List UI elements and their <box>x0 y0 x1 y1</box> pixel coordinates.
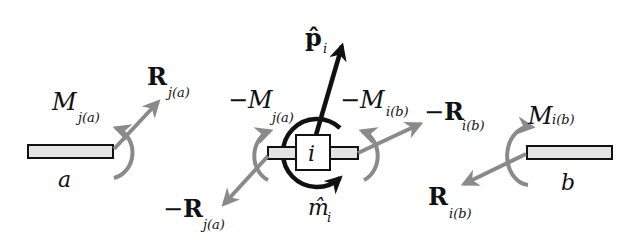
label-a: a <box>58 167 71 192</box>
label-M-ja: M j(a) <box>51 88 100 125</box>
svg-text:j(a): j(a) <box>165 85 190 100</box>
svg-text:i: i <box>323 41 327 56</box>
label-negR-ja: −R j(a) <box>163 194 225 232</box>
label-negM-ja: −M j(a) <box>228 86 294 125</box>
bar-a <box>28 145 113 158</box>
label-M-ib: M i(b) <box>527 102 575 130</box>
label-R-ib: R i(b) <box>428 182 472 221</box>
svg-text:j(a): j(a) <box>200 217 225 232</box>
svg-text:i(b): i(b) <box>462 118 485 133</box>
svg-text:R: R <box>428 182 449 211</box>
moment-arrow-M-ja <box>114 128 132 178</box>
force-arrow-negR-ja <box>224 156 268 204</box>
force-arrow-R-ja <box>114 102 158 149</box>
svg-text:R: R <box>147 62 168 91</box>
svg-text:M: M <box>527 102 554 130</box>
diagram-canvas: a M j(a) R j(a) i p̂ i −M j(a) −M <box>0 0 642 242</box>
svg-text:j(a): j(a) <box>269 110 294 125</box>
svg-text:−M: −M <box>340 86 386 114</box>
svg-text:p̂: p̂ <box>305 23 322 52</box>
label-negR-ib: −R i(b) <box>424 97 485 133</box>
body-i: i <box>224 46 420 204</box>
svg-text:−R: −R <box>424 97 465 126</box>
label-i: i <box>308 141 315 166</box>
force-arrow-negR-ib <box>358 124 420 153</box>
bar-b <box>527 146 612 159</box>
label-m-hat-i: m̂ i <box>308 195 331 225</box>
svg-text:−M: −M <box>228 86 274 114</box>
body-b: b <box>527 146 612 195</box>
svg-text:i(b): i(b) <box>552 112 575 127</box>
label-b: b <box>561 170 575 195</box>
label-negM-ib: −M i(b) <box>340 86 409 119</box>
svg-text:i: i <box>327 210 331 225</box>
svg-text:j(a): j(a) <box>75 110 100 125</box>
svg-text:i(b): i(b) <box>386 104 409 119</box>
svg-text:−R: −R <box>163 194 204 223</box>
moment-arrow-negM-ib <box>362 131 378 180</box>
label-p-hat-i: p̂ i <box>305 23 327 56</box>
body-a: a <box>28 145 113 192</box>
svg-text:m̂: m̂ <box>308 195 329 220</box>
free-body-diagram: a M j(a) R j(a) i p̂ i −M j(a) −M <box>0 0 642 242</box>
label-R-ja: R j(a) <box>147 62 190 100</box>
svg-text:i(b): i(b) <box>449 206 472 221</box>
svg-text:M: M <box>51 88 78 116</box>
